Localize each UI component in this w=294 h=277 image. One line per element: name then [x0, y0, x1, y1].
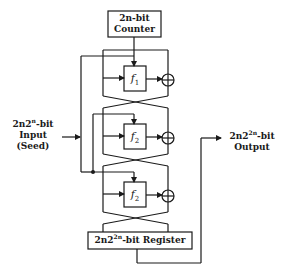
- input-line1: 2n2n-bit: [6, 119, 60, 130]
- f1-label: f1: [124, 66, 146, 96]
- pseudo-random-generator-diagram: 2n-bit Counter 2n2n-bit Input (Seed) 2n2…: [0, 0, 294, 277]
- output-line1: 2n22n-bit: [222, 131, 282, 142]
- input-line2: Input: [6, 130, 60, 141]
- output-label: 2n22n-bit Output: [222, 131, 282, 153]
- register-label: 2n22n-bit Register: [88, 235, 192, 246]
- input-label: 2n2n-bit Input (Seed): [6, 119, 60, 152]
- f2-label-b: f2: [124, 182, 146, 212]
- junction-dot: [91, 170, 95, 174]
- counter-label: 2n-bit Counter: [108, 13, 161, 35]
- counter-line1: 2n-bit: [108, 13, 161, 24]
- output-line2: Output: [222, 142, 282, 153]
- f2-label-a: f2: [124, 124, 146, 154]
- counter-line2: Counter: [108, 24, 161, 35]
- input-line3: (Seed): [6, 141, 60, 152]
